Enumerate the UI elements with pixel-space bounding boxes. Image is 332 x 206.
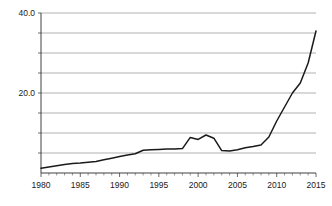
x-axis-labels: 19801985199019952000200520102015 <box>32 180 326 190</box>
data-series-line <box>41 31 316 168</box>
x-axis-label-2010: 2010 <box>267 180 286 190</box>
y-axis-label-20: 20.0 <box>18 88 35 98</box>
x-axis-label-2000: 2000 <box>189 180 208 190</box>
x-axis-label-1990: 1990 <box>110 180 129 190</box>
x-axis-ticks <box>41 173 316 177</box>
gridlines <box>41 13 316 153</box>
x-axis-label-2015: 2015 <box>307 180 326 190</box>
y-axis-label-40: 40.0 <box>18 8 35 18</box>
chart-canvas: 40.020.0 1980198519901995200020052010201… <box>0 0 332 206</box>
x-axis-label-1985: 1985 <box>71 180 90 190</box>
line-chart: 40.020.0 1980198519901995200020052010201… <box>0 0 332 206</box>
y-axis-labels: 40.020.0 <box>18 8 35 98</box>
x-axis-label-2005: 2005 <box>228 180 247 190</box>
x-axis-label-1980: 1980 <box>32 180 51 190</box>
x-axis-label-1995: 1995 <box>149 180 168 190</box>
